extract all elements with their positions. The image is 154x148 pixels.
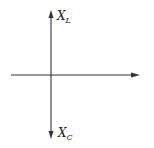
- arrow-right-icon: [131, 73, 140, 78]
- arrow-down-icon: [49, 131, 54, 139]
- label-inductive-reactance: XL: [57, 10, 71, 25]
- reactance-axes-diagram: XL XC: [0, 0, 154, 148]
- axes-svg: [0, 0, 154, 148]
- arrow-up-icon: [49, 10, 54, 18]
- label-capacitive-reactance: XC: [58, 127, 73, 142]
- label-xl-main: X: [57, 9, 66, 23]
- label-xc-subscript: C: [67, 133, 73, 142]
- label-xl-subscript: L: [66, 16, 71, 25]
- label-xc-main: X: [58, 126, 67, 140]
- horizontal-axis: [11, 73, 140, 78]
